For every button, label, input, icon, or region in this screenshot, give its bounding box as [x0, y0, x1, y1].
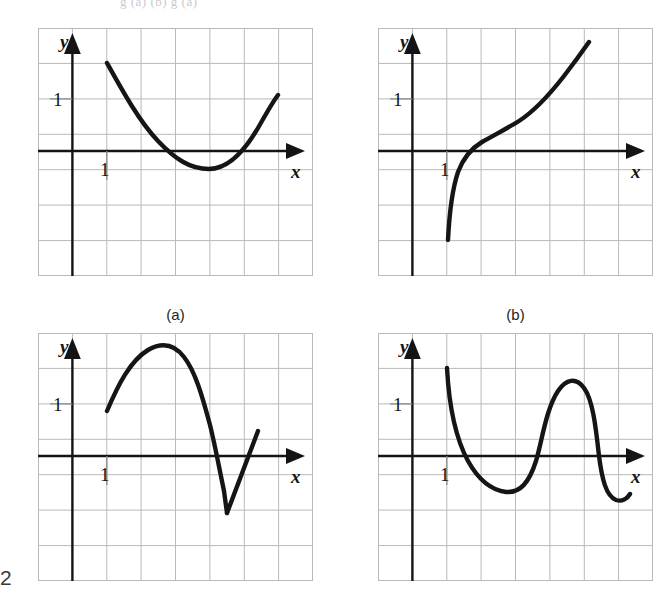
y-axis-label-a: y [58, 31, 69, 52]
x-tick-label-b: 1 [440, 159, 450, 180]
graph-panel-c: y x 1 1 (c) [38, 333, 313, 581]
cropped-header-text: g (a) (b) g (a) [0, 0, 664, 9]
caption-a: (a) [38, 306, 313, 323]
y-tick-label-d: 1 [393, 394, 403, 415]
y-tick-label-c: 1 [53, 394, 63, 415]
x-axis-label-a: x [290, 161, 301, 182]
caption-b: (b) [378, 306, 653, 323]
y-axis-label-d: y [398, 336, 409, 357]
x-tick-label-c: 1 [100, 464, 110, 485]
x-tick-label-a: 1 [100, 159, 110, 180]
page-number: 2 [0, 566, 26, 590]
graph-c-svg: y x 1 1 [38, 333, 313, 581]
graph-b-svg: y x 1 1 [378, 28, 653, 276]
graph-panel-b: y x 1 1 (b) [378, 28, 653, 276]
graph-panel-a: y x 1 1 (a) [38, 28, 313, 276]
y-tick-label-a: 1 [53, 89, 63, 110]
figure-sheet: g (a) (b) g (a) 2 [0, 0, 664, 610]
y-axis-label-c: y [58, 336, 69, 357]
x-axis-label-c: x [290, 466, 301, 487]
x-axis-label-d: x [630, 466, 641, 487]
graph-panel-d: y x 1 1 (d) [378, 333, 653, 581]
x-tick-label-d: 1 [440, 464, 450, 485]
y-axis-label-b: y [398, 31, 409, 52]
y-tick-label-b: 1 [393, 89, 403, 110]
graph-a-svg: y x 1 1 [38, 28, 313, 276]
graph-d-svg: y x 1 1 [378, 333, 653, 581]
x-axis-label-b: x [630, 161, 641, 182]
